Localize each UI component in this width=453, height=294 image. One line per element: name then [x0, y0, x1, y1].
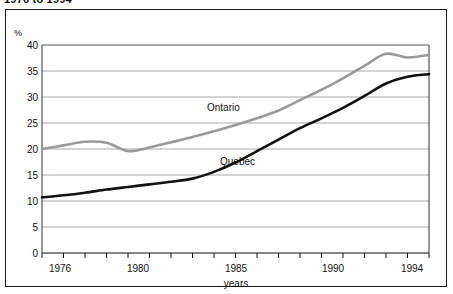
chart-figure: 1976 to 1994 % 40 35 30 25 20 15 10 5 0 … — [0, 0, 453, 294]
data-line-ontario — [42, 54, 429, 152]
x-axis-ticks — [42, 253, 429, 258]
data-line-quebec — [42, 74, 429, 197]
gridlines — [42, 45, 429, 227]
plot-area — [0, 0, 453, 294]
